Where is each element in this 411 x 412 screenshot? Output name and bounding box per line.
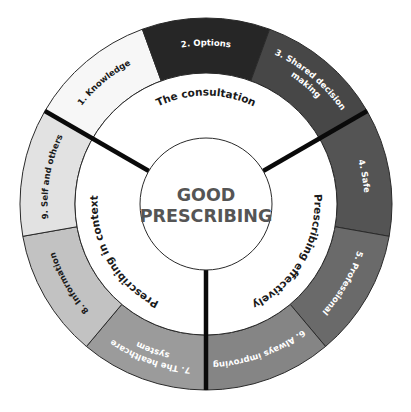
good-prescribing-wheel: 1. Knowledge2. Options3. Shared decision… (0, 0, 411, 412)
segment-2-wedge (142, 18, 269, 81)
segment-2: 2. Options (142, 18, 269, 81)
center-circle: GOOD PRESCRIBING (140, 138, 273, 270)
center-title-line1: GOOD (177, 185, 236, 205)
center-title-line2: PRESCRIBING (140, 206, 273, 226)
